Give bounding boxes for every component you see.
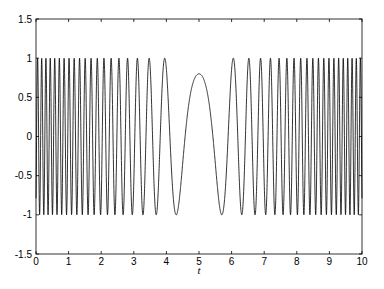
plot-area xyxy=(36,19,362,254)
y-tick-label: -1.5 xyxy=(15,249,33,260)
y-tick-label: 1 xyxy=(26,53,32,64)
y-tick-label: 1.5 xyxy=(18,14,32,25)
x-tick-label: 2 xyxy=(98,256,104,267)
x-tick-label: 10 xyxy=(356,256,368,267)
y-tick-label: -0.5 xyxy=(15,170,33,181)
chirp-chart: 012345678910 1.510.50-0.5-1-1.5 t xyxy=(0,0,384,289)
y-tick-label: 0.5 xyxy=(18,92,32,103)
x-tick-label: 6 xyxy=(229,256,235,267)
y-tick-label: 0 xyxy=(26,131,32,142)
y-tick-label: -1 xyxy=(23,209,32,220)
x-tick-label: 3 xyxy=(131,256,137,267)
x-tick-label: 8 xyxy=(294,256,300,267)
x-tick-label: 0 xyxy=(33,256,39,267)
x-tick-label: 9 xyxy=(327,256,333,267)
x-tick-label: 4 xyxy=(164,256,170,267)
x-tick-label: 1 xyxy=(66,256,72,267)
x-tick-label: 7 xyxy=(261,256,267,267)
